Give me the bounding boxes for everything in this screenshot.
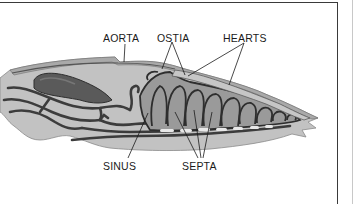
label-septa: SEPTA [182,161,217,172]
label-aorta: AORTA [103,33,139,44]
label-hearts: HEARTS [223,33,267,44]
label-sinus: SINUS [103,161,136,172]
circulatory-system-illustration [0,0,355,204]
label-ostia: OSTIA [157,33,190,44]
